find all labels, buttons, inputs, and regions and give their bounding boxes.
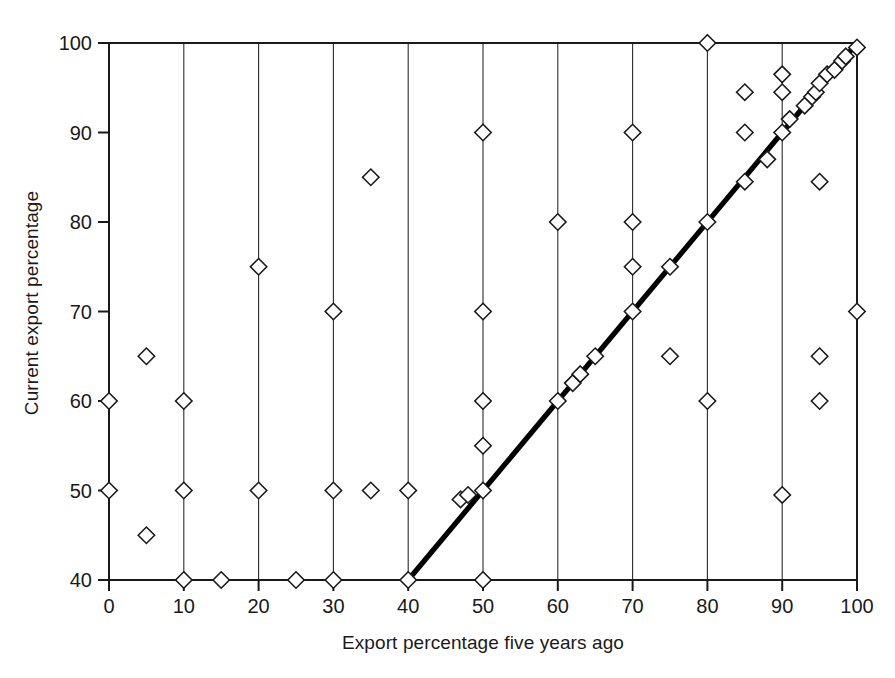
x-tick-label: 80 — [696, 595, 718, 617]
data-point-diamond — [774, 66, 790, 82]
data-point-diamond — [325, 303, 341, 319]
data-point-diamond — [475, 303, 491, 319]
data-point-diamond — [101, 393, 117, 409]
data-point-diamond — [325, 482, 341, 498]
tick-labels: 4050607080901000102030405060708090100 — [59, 32, 874, 617]
x-tick-label: 20 — [247, 595, 269, 617]
data-point-diamond — [699, 35, 715, 51]
y-axis-title: Current export percentage — [21, 123, 43, 483]
scatter-plot-figure: 4050607080901000102030405060708090100 Cu… — [0, 0, 895, 678]
data-point-diamond — [475, 438, 491, 454]
x-tick-label: 90 — [771, 595, 793, 617]
data-point-diamond — [550, 214, 566, 230]
data-point-diamond — [475, 572, 491, 588]
y-tick-label: 50 — [70, 480, 92, 502]
data-point-diamond — [176, 572, 192, 588]
data-point-diamond — [811, 393, 827, 409]
data-point-diamond — [363, 482, 379, 498]
data-point-diamond — [699, 393, 715, 409]
data-point-diamond — [138, 527, 154, 543]
data-point-diamond — [662, 348, 678, 364]
x-tick-label: 0 — [103, 595, 114, 617]
plot-canvas: 4050607080901000102030405060708090100 — [0, 0, 895, 678]
data-point-diamond — [849, 303, 865, 319]
y-tick-label: 80 — [70, 211, 92, 233]
data-point-diamond — [624, 259, 640, 275]
data-point-diamond — [176, 393, 192, 409]
x-tick-label: 100 — [840, 595, 873, 617]
x-tick-label: 40 — [397, 595, 419, 617]
data-point-diamond — [363, 169, 379, 185]
data-point-diamond — [176, 482, 192, 498]
data-point-diamond — [101, 482, 117, 498]
x-tick-label: 30 — [322, 595, 344, 617]
data-point-diamond — [774, 487, 790, 503]
data-point-diamond — [624, 124, 640, 140]
y-tick-label: 100 — [59, 32, 92, 54]
data-point-diamond — [475, 124, 491, 140]
y-tick-label: 70 — [70, 301, 92, 323]
data-point-diamond — [774, 84, 790, 100]
data-point-diamond — [213, 572, 229, 588]
data-point-diamond — [138, 348, 154, 364]
data-point-diamond — [250, 259, 266, 275]
x-tick-label: 60 — [547, 595, 569, 617]
y-tick-label: 60 — [70, 390, 92, 412]
data-point-diamond — [811, 348, 827, 364]
y-tick-label: 90 — [70, 122, 92, 144]
x-tick-label: 50 — [472, 595, 494, 617]
data-point-diamond — [624, 214, 640, 230]
data-point-diamond — [250, 482, 266, 498]
data-point-diamond — [475, 393, 491, 409]
y-tick-label: 40 — [70, 569, 92, 591]
x-tick-label: 10 — [173, 595, 195, 617]
data-point-diamond — [288, 572, 304, 588]
data-point-diamond — [737, 84, 753, 100]
data-point-diamond — [811, 174, 827, 190]
x-axis-title: Export percentage five years ago — [109, 632, 857, 654]
data-point-diamond — [737, 124, 753, 140]
x-tick-label: 70 — [621, 595, 643, 617]
data-point-diamond — [325, 572, 341, 588]
data-point-diamond — [400, 482, 416, 498]
